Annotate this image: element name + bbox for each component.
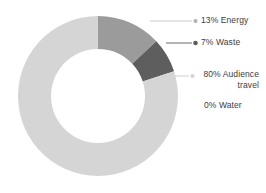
marker-dot-energy — [193, 19, 197, 23]
marker-dot-waste — [193, 41, 198, 46]
slice-label-audience-travel-line2: travel — [199, 80, 259, 91]
donut-chart-svg — [0, 0, 266, 193]
slice-label-energy: 13% Energy — [201, 15, 248, 26]
slice-label-water-text: 0% Water — [204, 100, 242, 111]
slice-label-water: 0% Water — [204, 100, 242, 111]
donut-chart-figure: 13% Energy 7% Waste 80% Audience travel … — [0, 0, 266, 193]
slice-label-waste: 7% Waste — [201, 37, 240, 48]
slice-label-audience-travel-line1: 80% Audience — [199, 69, 259, 80]
slice-label-waste-text: 7% Waste — [201, 37, 240, 48]
slice-label-audience-travel: 80% Audience travel — [199, 69, 259, 90]
marker-dot-audience-travel — [190, 74, 194, 78]
slice-label-energy-text: 13% Energy — [201, 15, 248, 26]
